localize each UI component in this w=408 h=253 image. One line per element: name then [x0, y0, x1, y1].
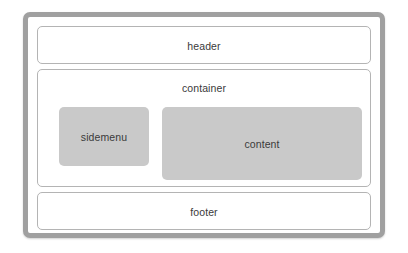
- content-block: content: [162, 107, 362, 180]
- content-label: content: [244, 138, 279, 150]
- header-region: header: [37, 26, 371, 64]
- footer-label: footer: [38, 206, 370, 218]
- container-region: container sidemenu content: [37, 69, 371, 187]
- page-layout-frame: header container sidemenu content footer: [23, 12, 385, 238]
- sidemenu-label: sidemenu: [81, 131, 127, 143]
- footer-region: footer: [37, 192, 371, 230]
- sidemenu-block: sidemenu: [59, 107, 149, 166]
- container-label: container: [38, 82, 370, 94]
- header-label: header: [38, 40, 370, 52]
